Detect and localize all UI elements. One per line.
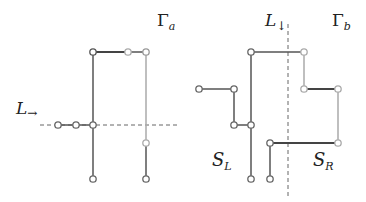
set-left-label: SL	[212, 149, 232, 173]
set-right-label: SR	[313, 149, 334, 173]
graph-a: Γa L→	[15, 10, 178, 182]
diagram-canvas: Γa L→ L↓ Γb SL SR	[0, 0, 366, 202]
node	[248, 176, 254, 182]
line-label-vertical: L↓	[264, 10, 286, 33]
node-light	[143, 49, 149, 55]
node-light	[335, 140, 341, 146]
node	[248, 122, 254, 128]
node	[143, 176, 149, 182]
node-light	[143, 140, 149, 146]
node	[231, 86, 237, 92]
node	[267, 140, 273, 146]
gamma-b-label: Γb	[332, 10, 351, 33]
line-label-horizontal: L→	[15, 98, 37, 120]
node	[248, 49, 254, 55]
graph-b: L↓ Γb SL SR	[196, 10, 351, 196]
gamma-a-label: Γa	[157, 10, 175, 33]
node	[196, 86, 202, 92]
node	[90, 49, 96, 55]
node	[55, 122, 61, 128]
node	[267, 176, 273, 182]
node-light	[301, 86, 307, 92]
node	[73, 122, 79, 128]
node-light	[301, 49, 307, 55]
node	[90, 176, 96, 182]
node	[90, 122, 96, 128]
node-light	[125, 49, 131, 55]
node	[231, 122, 237, 128]
node-light	[335, 86, 341, 92]
